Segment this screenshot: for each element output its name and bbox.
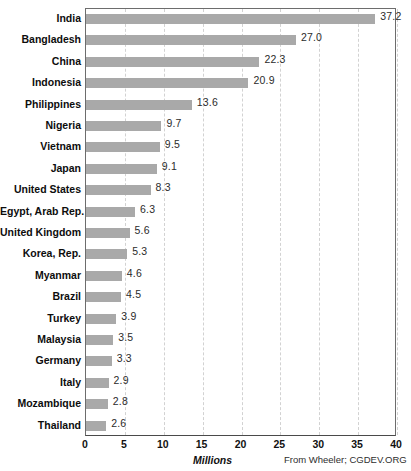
bar-value-label: 6.3	[140, 203, 155, 215]
plot-area: 37.227.022.320.913.69.79.59.18.36.35.65.…	[85, 8, 396, 436]
bar-row: 9.5	[86, 137, 395, 158]
bar	[86, 142, 160, 152]
x-tick-label: 35	[351, 438, 363, 450]
bar-row: 2.9	[86, 373, 395, 394]
bar-value-label: 2.6	[111, 417, 126, 429]
bar	[86, 100, 192, 110]
bar-row: 22.3	[86, 52, 395, 73]
bar-row: 4.5	[86, 287, 395, 308]
category-label: Korea, Rep.	[0, 243, 81, 264]
chart-title	[0, 0, 411, 3]
category-label: Bangladesh	[0, 29, 81, 50]
category-label: Philippines	[0, 94, 81, 115]
category-label: Myanmar	[0, 265, 81, 286]
bar-value-label: 3.5	[118, 331, 133, 343]
bar-value-label: 9.1	[162, 160, 177, 172]
bar-row: 37.2	[86, 9, 395, 30]
category-label: India	[0, 8, 81, 29]
bar	[86, 378, 109, 388]
bar-row: 9.7	[86, 116, 395, 137]
bar	[86, 314, 116, 324]
bar-row: 20.9	[86, 73, 395, 94]
category-label: Japan	[0, 158, 81, 179]
bar	[86, 14, 375, 24]
category-label: United Kingdom	[0, 222, 81, 243]
category-label: Italy	[0, 372, 81, 393]
category-label: Nigeria	[0, 115, 81, 136]
bar-value-label: 13.6	[197, 96, 218, 108]
bar	[86, 292, 121, 302]
bar-value-label: 5.3	[132, 245, 147, 257]
category-label: Egypt, Arab Rep.	[0, 201, 81, 222]
bar-row: 5.6	[86, 223, 395, 244]
category-label: Brazil	[0, 286, 81, 307]
bar	[86, 78, 248, 88]
x-tick-label: 40	[390, 438, 402, 450]
x-tick-label: 5	[121, 438, 127, 450]
bar-value-label: 4.5	[126, 288, 141, 300]
bar-value-label: 2.9	[114, 374, 129, 386]
bar-row: 2.6	[86, 416, 395, 437]
category-label: Thailand	[0, 415, 81, 436]
gridline	[397, 9, 398, 435]
bar	[86, 271, 122, 281]
bar-row: 13.6	[86, 95, 395, 116]
bar-value-label: 9.7	[166, 117, 181, 129]
bar-row: 3.9	[86, 309, 395, 330]
bar-value-label: 3.3	[117, 352, 132, 364]
bar-value-label: 3.9	[121, 310, 136, 322]
category-label: United States	[0, 179, 81, 200]
bar	[86, 207, 135, 217]
bar-row: 9.1	[86, 159, 395, 180]
bar-row: 2.8	[86, 394, 395, 415]
bar	[86, 421, 106, 431]
bar	[86, 335, 113, 345]
bar-value-label: 37.2	[380, 10, 401, 22]
bar	[86, 356, 112, 366]
bar	[86, 121, 161, 131]
bar-value-label: 20.9	[253, 74, 274, 86]
bar-row: 27.0	[86, 30, 395, 51]
x-tick-label: 10	[157, 438, 169, 450]
bar	[86, 228, 130, 238]
category-label: Malaysia	[0, 329, 81, 350]
x-tick-label: 15	[196, 438, 208, 450]
x-axis-ticks: 0510152025303540	[85, 438, 396, 453]
bar-row: 8.3	[86, 180, 395, 201]
bar	[86, 185, 151, 195]
bar	[86, 35, 296, 45]
bar-value-label: 4.6	[127, 267, 142, 279]
bar-row: 5.3	[86, 244, 395, 265]
bar-value-label: 22.3	[264, 53, 285, 65]
bar	[86, 164, 157, 174]
category-label: China	[0, 51, 81, 72]
x-tick-label: 25	[274, 438, 286, 450]
category-label: Indonesia	[0, 72, 81, 93]
category-label: Vietnam	[0, 136, 81, 157]
bar-chart: IndiaBangladeshChinaIndonesiaPhilippines…	[0, 0, 411, 471]
bar	[86, 249, 127, 259]
source-attribution: From Wheeler; CGDEV.ORG	[284, 454, 407, 465]
category-axis-labels: IndiaBangladeshChinaIndonesiaPhilippines…	[0, 8, 81, 436]
bar-rows: 37.227.022.320.913.69.79.59.18.36.35.65.…	[86, 9, 395, 435]
x-tick-label: 20	[235, 438, 247, 450]
x-axis-title: Millions	[193, 454, 232, 466]
bar	[86, 399, 108, 409]
x-tick-label: 30	[312, 438, 324, 450]
bar-row: 3.3	[86, 351, 395, 372]
bar-value-label: 27.0	[301, 31, 322, 43]
bar-row: 3.5	[86, 330, 395, 351]
category-label: Mozambique	[0, 393, 81, 414]
bar-value-label: 8.3	[156, 181, 171, 193]
bar-row: 4.6	[86, 266, 395, 287]
category-label: Turkey	[0, 308, 81, 329]
category-label: Germany	[0, 350, 81, 371]
bar-value-label: 2.8	[113, 395, 128, 407]
x-tick-label: 0	[82, 438, 88, 450]
bar-value-label: 5.6	[135, 224, 150, 236]
bar	[86, 57, 259, 67]
bar-row: 6.3	[86, 202, 395, 223]
bar-value-label: 9.5	[165, 138, 180, 150]
